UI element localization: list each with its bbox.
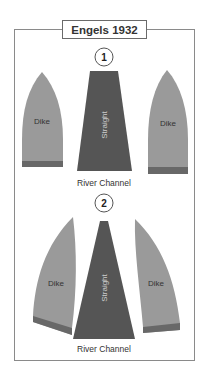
left-dike: Dike (33, 217, 76, 335)
svg-text:Dike: Dike (48, 279, 65, 288)
svg-text:Dike: Dike (34, 117, 51, 126)
right-dike: Dike (148, 70, 188, 174)
svg-text:Dike: Dike (148, 279, 165, 288)
channel-caption: River Channel (77, 178, 131, 188)
panel-number-badge: 1 (95, 48, 113, 66)
panel-1: 1 Dike Straight Dike River Channel (22, 48, 188, 188)
right-dike: Dike (135, 219, 180, 333)
left-dike: Dike (22, 72, 63, 167)
svg-text:Straight: Straight (100, 273, 109, 301)
svg-text:Dike: Dike (160, 119, 177, 128)
panel-2: 2 Dike Straight Dike River Channel (33, 194, 180, 354)
channel-shape: Straight (77, 71, 132, 171)
svg-text:Straight: Straight (100, 110, 109, 138)
svg-text:2: 2 (101, 198, 107, 209)
panel-number-badge: 2 (95, 194, 113, 212)
dike-diagram: 1 Dike Straight Dike River Channel 2 (0, 0, 202, 373)
channel-caption: River Channel (77, 344, 131, 354)
channel-shape: Straight (73, 221, 135, 339)
svg-text:1: 1 (101, 52, 107, 63)
